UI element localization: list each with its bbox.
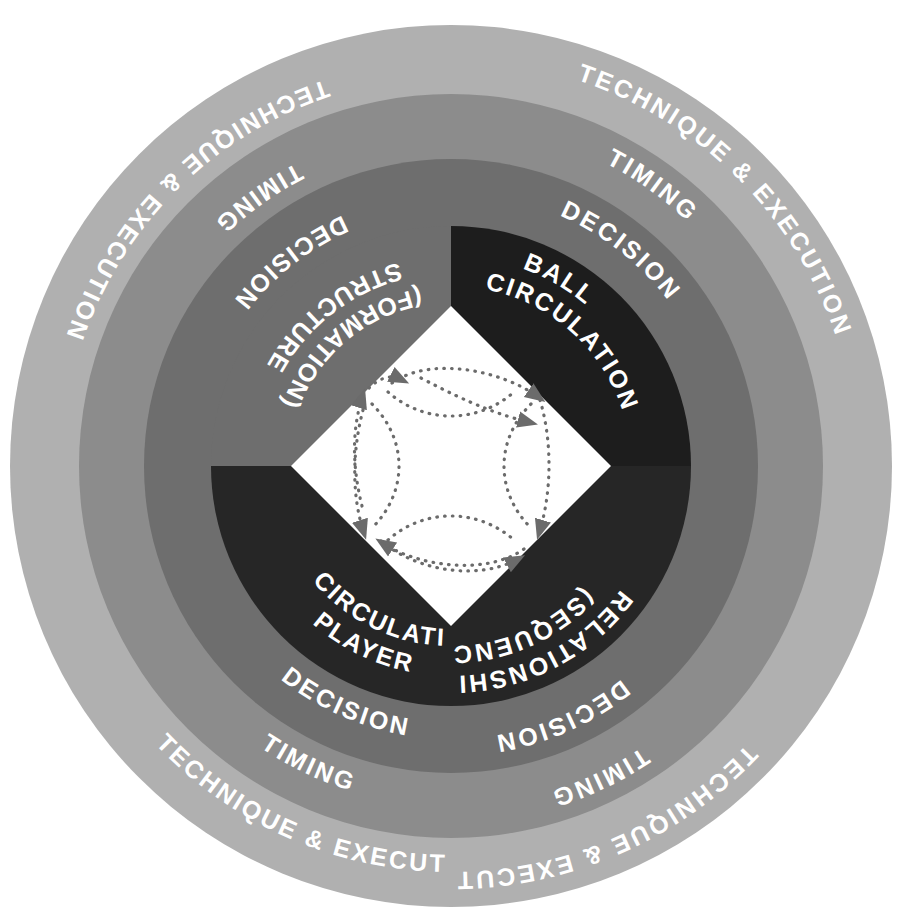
diagram-canvas: TECHNIQUE & EXECUTION TECHNIQUE & EXECUT…	[0, 0, 902, 920]
concentric-circle-diagram: TECHNIQUE & EXECUTION TECHNIQUE & EXECUT…	[0, 0, 902, 920]
